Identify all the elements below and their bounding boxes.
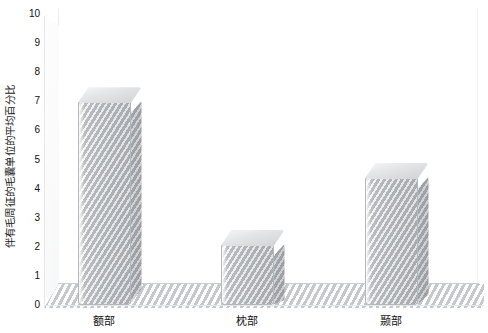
y-axis-tick-label: 6 — [18, 125, 40, 135]
bar — [78, 85, 131, 305]
y-axis-tick-label: 5 — [18, 155, 40, 165]
bar — [365, 161, 418, 305]
x-axis-category-label: 枕部 — [207, 312, 287, 328]
y-axis-tick-label: 7 — [18, 96, 40, 106]
bar-front-face — [365, 177, 418, 305]
bar-chart: 伴有毛周征的毛囊单位的平均百分比 012345678910 额部枕部颞部 — [0, 0, 488, 333]
y-axis-tick-label: 4 — [18, 184, 40, 194]
bar-side-face — [130, 101, 142, 305]
y-axis-tick-label: 10 — [18, 9, 40, 19]
y-axis-tick-label: 2 — [18, 242, 40, 252]
y-axis-tick-label: 9 — [18, 38, 40, 48]
x-axis-category-label: 颞部 — [351, 312, 431, 328]
plot-left-wall-edge — [44, 16, 45, 304]
bar-top-face — [221, 230, 285, 246]
x-axis-category-label: 额部 — [64, 312, 144, 328]
bar-side-face — [417, 177, 429, 305]
y-axis-tick-label: 1 — [18, 271, 40, 281]
y-axis-tick-label: 8 — [18, 67, 40, 77]
y-axis-ticks: 012345678910 — [8, 0, 40, 333]
bar-top-face — [78, 87, 142, 103]
plot-left-wall — [44, 16, 59, 306]
y-axis-tick-label: 3 — [18, 213, 40, 223]
bar — [221, 228, 274, 305]
bar-front-face — [78, 101, 131, 305]
plot-area — [44, 6, 484, 308]
bar-front-face — [221, 244, 274, 305]
y-axis-tick-label: 0 — [18, 300, 40, 310]
plot-floor-front-edge — [44, 305, 484, 306]
bar-top-face — [365, 163, 429, 179]
